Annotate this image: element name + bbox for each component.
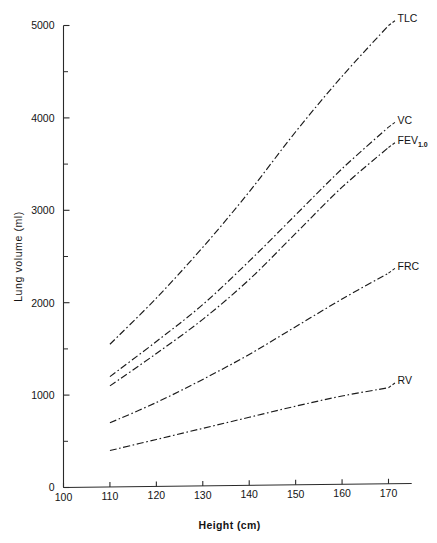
x-axis-line <box>64 484 412 488</box>
x-axis-tick-label: 120 <box>148 489 166 501</box>
lung-volume-chart-figure: 0100020003000400050001001101201301401501… <box>0 0 437 543</box>
series-label-frc: FRC <box>398 260 420 272</box>
curve-label-leader-vc <box>389 122 397 128</box>
curve-label-leader-frc <box>389 268 397 274</box>
curve-frc <box>110 273 389 423</box>
x-axis-tick-label: 150 <box>287 488 305 500</box>
curve-label-leader-tlc <box>389 20 397 26</box>
x-axis-tick-label: 160 <box>333 487 351 499</box>
series-label-rv: RV <box>398 374 412 386</box>
y-axis-tick-label: 1000 <box>31 389 55 401</box>
y-axis-tick-label: 3000 <box>31 204 55 216</box>
y-axis-tick-label: 4000 <box>31 112 55 124</box>
series-label-tlc: TLC <box>398 12 418 24</box>
curve-label-leader-fev1-0 <box>389 142 397 148</box>
series-label-fev1-0: FEV1.0 <box>398 134 428 148</box>
x-axis-tick-label: 110 <box>102 490 119 502</box>
chart-canvas: 0100020003000400050001001101201301401501… <box>0 0 437 543</box>
curve-rv <box>110 388 389 451</box>
y-axis-title: Lung volume (ml) <box>12 211 24 302</box>
x-axis-tick-label: 140 <box>240 488 258 500</box>
curve-vc <box>110 127 389 376</box>
y-axis-tick-label: 2000 <box>31 297 55 309</box>
series-label-vc: VC <box>398 114 413 126</box>
x-axis-tick-label: 130 <box>194 489 212 501</box>
curve-fev1-0 <box>110 147 389 385</box>
x-axis-tick-label: 170 <box>380 487 398 499</box>
y-axis-tick-label: 5000 <box>31 19 55 31</box>
curve-label-leader-rv <box>389 382 397 388</box>
x-axis-title: Height (cm) <box>199 519 261 531</box>
x-axis-tick-label: 100 <box>55 491 73 503</box>
